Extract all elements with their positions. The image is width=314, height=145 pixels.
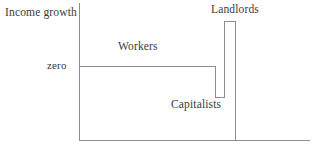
zero-tick-label: zero	[47, 60, 67, 71]
landlords-label: Landlords	[211, 4, 259, 16]
figure-canvas	[0, 0, 314, 145]
workers-label: Workers	[118, 41, 158, 53]
landlords-bar	[225, 22, 236, 141]
capitalists-step	[216, 67, 225, 98]
y-axis-label: Income growth	[5, 7, 77, 19]
income-growth-figure: Income growth zero Workers Capitalists L…	[0, 0, 314, 145]
capitalists-label: Capitalists	[171, 99, 221, 111]
